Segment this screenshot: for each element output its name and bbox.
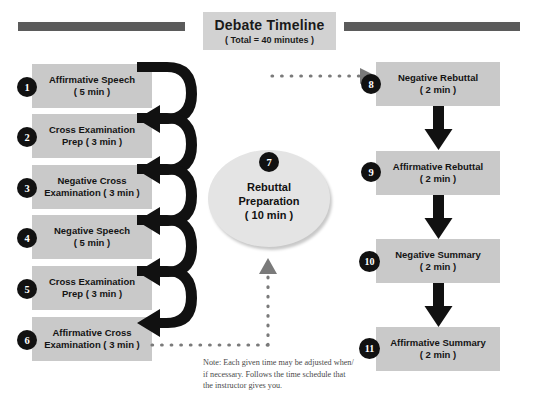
dotted-arrowhead-oval bbox=[259, 258, 277, 274]
footnote-line-1: Note: Each given time may be adjusted wh… bbox=[203, 357, 365, 369]
step-number-4: 4 bbox=[17, 228, 37, 248]
step-number-1: 1 bbox=[17, 77, 37, 97]
step-2-duration: Prep ( 3 min ) bbox=[62, 136, 122, 148]
step-8-duration: ( 2 min ) bbox=[420, 84, 456, 96]
footnote: Note: Each given time may be adjusted wh… bbox=[203, 357, 365, 392]
step-box-3[interactable]: Negative Cross Examination ( 3 min ) bbox=[32, 165, 152, 209]
step-box-9[interactable]: Affirmative Rebuttal ( 2 min ) bbox=[376, 151, 500, 195]
step-4-title: Negative Speech bbox=[54, 225, 130, 237]
step-1-duration: ( 5 min ) bbox=[74, 86, 110, 98]
title-subtitle: ( Total = 40 minutes ) bbox=[225, 36, 314, 45]
center-title-1: Rebuttal bbox=[247, 180, 291, 194]
step-number-8: 8 bbox=[361, 74, 381, 94]
step-number-6: 6 bbox=[17, 330, 37, 350]
step-box-5[interactable]: Cross Examination Prep ( 3 min ) bbox=[32, 266, 152, 310]
step-box-6[interactable]: Affirmative Cross Examination ( 3 min ) bbox=[32, 317, 152, 361]
step-box-11[interactable]: Affirmative Summary ( 2 min ) bbox=[376, 327, 500, 371]
footnote-line-3: the instructor gives you. bbox=[203, 380, 365, 392]
diagram-title: Debate Timeline ( Total = 40 minutes ) bbox=[203, 12, 336, 50]
step-11-title: Affirmative Summary bbox=[390, 337, 486, 349]
step-11-duration: ( 2 min ) bbox=[420, 349, 456, 361]
step-number-11: 11 bbox=[359, 338, 380, 359]
step-9-duration: ( 2 min ) bbox=[420, 173, 456, 185]
step-2-title: Cross Examination bbox=[49, 124, 135, 136]
header-bar-right bbox=[344, 22, 520, 31]
right-arrow-8-9 bbox=[425, 106, 453, 150]
step-9-title: Affirmative Rebuttal bbox=[393, 161, 483, 173]
step-8-title: Negative Rebuttal bbox=[398, 72, 478, 84]
header-bar-left bbox=[18, 22, 185, 31]
center-duration: ( 10 min ) bbox=[245, 208, 293, 222]
step-10-title: Negative Summary bbox=[395, 249, 481, 261]
step-4-duration: ( 5 min ) bbox=[74, 237, 110, 249]
step-box-1[interactable]: Affirmative Speech ( 5 min ) bbox=[32, 64, 152, 108]
step-number-10: 10 bbox=[359, 251, 380, 272]
step-box-8[interactable]: Negative Rebuttal ( 2 min ) bbox=[376, 62, 500, 106]
step-box-10[interactable]: Negative Summary ( 2 min ) bbox=[376, 239, 500, 283]
right-arrow-10-11 bbox=[425, 283, 453, 327]
step-3-duration: Examination ( 3 min ) bbox=[44, 187, 140, 199]
step-6-duration: Examination ( 3 min ) bbox=[44, 339, 140, 351]
step-1-title: Affirmative Speech bbox=[49, 74, 135, 86]
step-box-4[interactable]: Negative Speech ( 5 min ) bbox=[32, 215, 152, 259]
step-number-9: 9 bbox=[361, 162, 381, 182]
step-box-2[interactable]: Cross Examination Prep ( 3 min ) bbox=[32, 114, 152, 158]
title-main: Debate Timeline bbox=[214, 18, 324, 32]
right-arrow-9-10 bbox=[425, 195, 453, 239]
debate-timeline-diagram: Debate Timeline ( Total = 40 minutes ) A… bbox=[0, 0, 537, 413]
step-number-5: 5 bbox=[17, 279, 37, 299]
step-10-duration: ( 2 min ) bbox=[420, 261, 456, 273]
step-6-title: Affirmative Cross bbox=[52, 327, 131, 339]
step-number-2: 2 bbox=[17, 127, 37, 147]
footnote-line-2: if necessary. Follows the time schedule … bbox=[203, 369, 365, 381]
step-3-title: Negative Cross bbox=[57, 175, 126, 187]
step-number-7: 7 bbox=[259, 152, 279, 172]
center-title-2: Preparation bbox=[238, 194, 299, 208]
step-5-title: Cross Examination bbox=[49, 276, 135, 288]
step-number-3: 3 bbox=[17, 178, 37, 198]
step-5-duration: Prep ( 3 min ) bbox=[62, 288, 122, 300]
